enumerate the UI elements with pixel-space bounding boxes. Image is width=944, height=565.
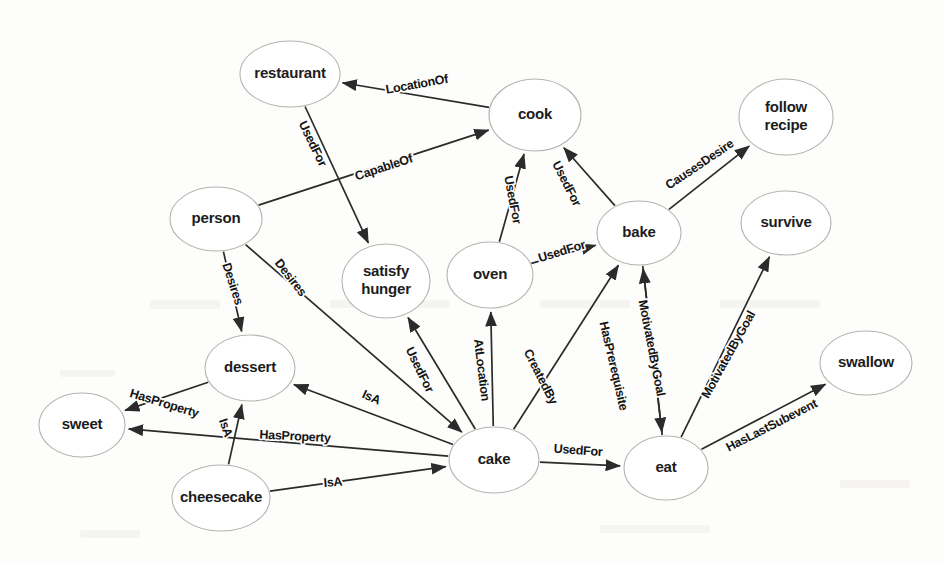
edge-label-text: UsedFor — [296, 119, 330, 169]
node-label-line: eat — [655, 458, 676, 475]
graph-node-bake[interactable]: bake — [597, 201, 681, 265]
edge-label-text: IsA — [323, 474, 343, 490]
node-label-line: follow — [765, 98, 808, 115]
edge-label-desires: DesiresDesires — [272, 256, 310, 299]
node-label-cake: cake — [478, 450, 511, 467]
graph-node-cheesecake[interactable]: cheesecake — [172, 465, 270, 531]
edge-label-hasproperty: HasPropertyHasProperty — [128, 386, 200, 420]
edge-label-haslastsubevent: HasLastSubeventHasLastSubevent — [724, 396, 821, 455]
node-label-line: restaurant — [254, 64, 326, 81]
graph-node-eat[interactable]: eat — [624, 436, 708, 500]
node-label-line: sweet — [62, 415, 103, 432]
edge-label-text: MotivatedByGoal — [636, 299, 668, 397]
graph-node-follow_recipe[interactable]: followrecipe — [739, 79, 833, 155]
node-label-line: survive — [760, 213, 811, 230]
node-label-survive: survive — [760, 213, 811, 230]
node-label-line: bake — [622, 223, 655, 240]
graph-node-cake[interactable]: cake — [449, 427, 539, 493]
node-label-swallow: swallow — [838, 353, 895, 370]
graph-node-satisfy_hunger[interactable]: satisfyhunger — [342, 244, 430, 318]
graph-edge-cheesecake-IsA-cake — [270, 467, 446, 491]
edge-label-text: HasLastSubevent — [724, 396, 821, 455]
node-label-line: swallow — [838, 353, 895, 370]
node-label-follow_recipe: followrecipe — [765, 98, 808, 133]
graph-node-dessert[interactable]: dessert — [205, 335, 295, 401]
knowledge-graph-diagram: restaurantcookfollowrecipepersonbakesurv… — [0, 0, 944, 565]
node-label-dessert: dessert — [224, 358, 276, 375]
node-label-cheesecake: cheesecake — [180, 488, 262, 505]
graph-node-swallow[interactable]: swallow — [820, 331, 912, 395]
edge-label-text: MotivatedByGoal — [699, 309, 759, 401]
edge-label-capableof: CapableOfCapableOf — [353, 151, 415, 183]
edge-label-text: LocationOf — [385, 72, 451, 97]
edge-label-text: IsA — [216, 417, 235, 439]
edge-label-isa: IsAIsA — [323, 474, 343, 490]
edge-label-text: Desires — [272, 256, 310, 299]
node-label-line: oven — [473, 265, 507, 282]
edge-label-atlocation: AtLocationAtLocation — [471, 338, 492, 402]
edge-label-text: UsedFor — [537, 237, 588, 265]
node-label-line: cook — [518, 105, 553, 122]
graph-node-person[interactable]: person — [170, 187, 262, 251]
edge-label-usedfor: UsedForUsedFor — [296, 119, 330, 169]
edge-label-locationof: LocationOfLocationOf — [385, 72, 451, 97]
node-label-line: satisfy — [363, 262, 410, 279]
edge-label-usedfor: UsedForUsedFor — [549, 159, 584, 209]
edge-label-text: UsedFor — [501, 175, 524, 226]
graph-svg-surface: restaurantcookfollowrecipepersonbakesurv… — [0, 0, 944, 565]
node-label-cook: cook — [518, 105, 553, 122]
edge-label-usedfor: UsedForUsedFor — [501, 175, 524, 226]
graph-node-cook[interactable]: cook — [489, 79, 581, 151]
edge-label-text: AtLocation — [471, 338, 492, 402]
edge-label-text: UsedFor — [553, 442, 603, 459]
edge-label-text: HasPrerequisite — [597, 320, 631, 412]
node-label-oven: oven — [473, 265, 507, 282]
edge-label-isa: IsAIsA — [216, 417, 235, 439]
edge-label-usedfor: UsedForUsedFor — [553, 442, 603, 459]
edge-label-usedfor: UsedForUsedFor — [403, 345, 437, 395]
edge-label-text: HasProperty — [259, 427, 331, 445]
node-label-line: person — [192, 209, 241, 226]
nodes-layer: restaurantcookfollowrecipepersonbakesurv… — [39, 41, 912, 531]
edge-label-text: UsedFor — [549, 159, 584, 209]
edge-label-usedfor: UsedForUsedFor — [537, 237, 588, 265]
edge-label-isa: IsAIsA — [360, 387, 383, 407]
edge-label-text: CreatedBy — [521, 347, 561, 407]
graph-edge-eat-HasLastSubevent-swallow — [701, 384, 825, 449]
graph-node-sweet[interactable]: sweet — [39, 393, 125, 457]
edge-label-hasproperty: HasPropertyHasProperty — [259, 427, 331, 445]
node-label-line: recipe — [765, 116, 808, 133]
node-label-line: cheesecake — [180, 488, 262, 505]
edge-label-text: CapableOf — [353, 151, 415, 183]
node-label-eat: eat — [655, 458, 676, 475]
node-label-bake: bake — [622, 223, 655, 240]
edge-label-createdby: CreatedByCreatedBy — [521, 347, 561, 407]
edge-label-text: HasProperty — [128, 386, 200, 420]
node-label-line: hunger — [361, 280, 411, 297]
graph-node-restaurant[interactable]: restaurant — [240, 41, 340, 107]
graph-node-oven[interactable]: oven — [447, 242, 533, 308]
node-label-satisfy_hunger: satisfyhunger — [361, 262, 411, 297]
node-label-restaurant: restaurant — [254, 64, 326, 81]
graph-edge-cake-AtLocation-oven — [491, 312, 493, 426]
node-label-line: cake — [478, 450, 511, 467]
edge-label-desires: DesiresDesires — [219, 261, 246, 307]
node-label-line: dessert — [224, 358, 276, 375]
node-label-person: person — [192, 209, 241, 226]
node-label-sweet: sweet — [62, 415, 103, 432]
edge-label-text: UsedFor — [403, 345, 437, 395]
edge-label-hasprerequisite: HasPrerequisiteHasPrerequisite — [597, 320, 631, 412]
edge-label-motivatedbygoal: MotivatedByGoalMotivatedByGoal — [636, 299, 668, 397]
edge-label-text: Desires — [219, 261, 246, 307]
edge-label-motivatedbygoal: MotivatedByGoalMotivatedByGoal — [699, 309, 759, 401]
edge-label-text: IsA — [360, 387, 383, 407]
graph-node-survive[interactable]: survive — [741, 191, 831, 255]
graph-edge-cake-UsedFor-eat — [540, 462, 620, 466]
